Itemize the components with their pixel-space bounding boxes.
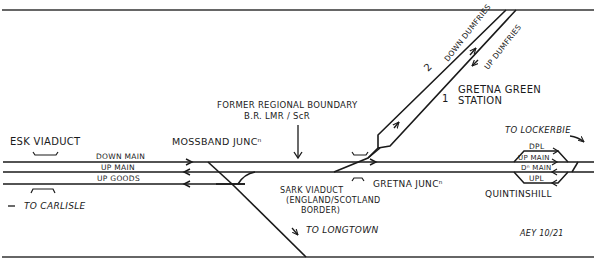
platform-2-label: 2	[422, 61, 434, 73]
dpl-label: DPL	[529, 142, 545, 151]
esk-viaduct-bridge-top	[33, 152, 58, 155]
down-main-label: DOWN MAIN	[96, 152, 145, 161]
quintinshill-up-main-label: UP MAIN	[518, 154, 550, 162]
sark-bridge-bottom	[352, 178, 364, 181]
esk-viaduct-label: ESK VIADUCT	[10, 136, 81, 147]
up-goods-label: UP GOODS	[97, 174, 140, 183]
to-lockerbie-arrow	[570, 136, 584, 142]
gretna-bridge-top	[352, 152, 368, 155]
author-date-note: AEY 10/21	[519, 229, 564, 238]
sark-viaduct-label: SARK VIADUCT	[280, 186, 343, 195]
up-main-label: UP MAIN	[101, 163, 135, 172]
gretna-green-station-label: STATION	[458, 95, 502, 106]
mossband-junction-label: MOSSBAND JUNCⁿ	[172, 136, 262, 147]
to-carlisle-label: TO CARLISLE	[24, 201, 86, 211]
upl-label: UPL	[529, 174, 545, 183]
gretna-green-arrow	[394, 122, 399, 128]
esk-viaduct-bridge-bottom	[31, 189, 55, 193]
boundary-label-line1: FORMER REGIONAL BOUNDARY	[217, 100, 358, 110]
gretna-junction-label: GRETNA JUNCⁿ	[373, 179, 443, 189]
quintinshill-down-main-label: Dⁿ MAIN	[521, 164, 552, 172]
sark-viaduct-label-2: (ENGLAND/SCOTLAND	[286, 196, 381, 205]
down-dumfries-label: DOWN DUMFRIES	[442, 3, 492, 64]
to-longtown-arrow	[292, 228, 298, 235]
boundary-label-line2: B.R. LMR / ScR	[244, 111, 310, 121]
quintinshill-arrows	[552, 148, 558, 186]
up-dumfries-arrow	[472, 60, 478, 66]
up-dumfries-label: UP DUMFRIES	[482, 23, 523, 72]
gretna-green-label: GRETNA GREEN	[458, 84, 541, 95]
to-longtown-label: TO LONGTOWN	[306, 225, 378, 235]
quintinshill-label: QUINTINSHILL	[485, 189, 552, 199]
direction-arrows	[184, 159, 376, 187]
mossband-junction-tracks	[208, 162, 306, 257]
railway-track-diagram: ESK VIADUCT DOWN MAIN UP MAIN UP GOODS T…	[0, 0, 594, 270]
to-lockerbie-label: TO LOCKERBIE	[505, 125, 571, 135]
sark-viaduct-label-3: BORDER)	[301, 206, 340, 215]
platform-1-label: 1	[442, 93, 449, 104]
